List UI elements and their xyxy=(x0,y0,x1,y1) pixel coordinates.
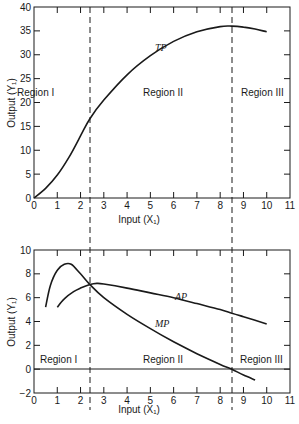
bottom-y-axis-title: Output (Y₁) xyxy=(6,297,17,347)
x-tick-label: 3 xyxy=(101,200,107,211)
y-tick-label: 40 xyxy=(20,2,32,13)
bottom-region-2-label: Region II xyxy=(143,354,183,365)
production-function-figure: 01234567891011 0510152025303540 TP Regio… xyxy=(0,0,299,424)
ap-label: AP xyxy=(174,291,187,302)
x-tick-label: 9 xyxy=(241,395,247,406)
y-tick-label: 35 xyxy=(20,25,32,36)
bottom-region-1-label: Region I xyxy=(40,354,77,365)
y-tick-label: 5 xyxy=(25,169,31,180)
y-tick-label: 10 xyxy=(20,245,32,256)
top-x-ticks: 01234567891011 xyxy=(31,7,295,211)
x-tick-label: 5 xyxy=(148,200,154,211)
y-tick-label: −2 xyxy=(20,388,32,399)
top-region-1-label: Region I xyxy=(17,87,54,98)
x-tick-label: 6 xyxy=(171,395,177,406)
y-tick-label: 20 xyxy=(20,97,32,108)
y-tick-label: 2 xyxy=(25,340,31,351)
x-tick-label: 7 xyxy=(194,395,200,406)
x-tick-label: 4 xyxy=(124,200,130,211)
y-tick-label: 0 xyxy=(25,193,31,204)
tp-label: TP xyxy=(155,42,167,53)
y-tick-label: 4 xyxy=(25,316,31,327)
y-tick-label: 6 xyxy=(25,292,31,303)
y-tick-label: 15 xyxy=(20,121,32,132)
top-x-axis-title: Input (X₁) xyxy=(118,214,160,225)
x-tick-label: 8 xyxy=(217,395,223,406)
x-tick-label: 0 xyxy=(31,200,37,211)
y-tick-label: 8 xyxy=(25,268,31,279)
top-plot-frame xyxy=(34,7,290,198)
bottom-region-3-label: Region III xyxy=(240,354,283,365)
x-tick-label: 8 xyxy=(217,200,223,211)
x-tick-label: 3 xyxy=(101,395,107,406)
y-tick-label: 25 xyxy=(20,73,32,84)
total-product-chart: 01234567891011 0510152025303540 TP Regio… xyxy=(6,2,296,226)
bottom-x-axis-title: Input (X₁) xyxy=(118,404,160,415)
x-tick-label: 2 xyxy=(78,200,84,211)
x-tick-label: 10 xyxy=(261,395,273,406)
x-tick-label: 7 xyxy=(194,200,200,211)
x-tick-label: 0 xyxy=(31,395,37,406)
mp-label: MP xyxy=(154,318,169,329)
x-tick-label: 11 xyxy=(285,395,296,406)
top-y-axis-title: Output (Y₁) xyxy=(6,78,17,128)
y-tick-label: 10 xyxy=(20,145,32,156)
x-tick-label: 1 xyxy=(54,200,60,211)
marginal-average-product-chart: 01234567891011 −20246810 AP MP Region I … xyxy=(6,245,296,416)
top-y-ticks: 0510152025303540 xyxy=(20,2,290,204)
x-tick-label: 1 xyxy=(54,395,60,406)
x-tick-label: 2 xyxy=(78,395,84,406)
top-region-2-label: Region II xyxy=(143,87,183,98)
x-tick-label: 6 xyxy=(171,200,177,211)
x-tick-label: 9 xyxy=(241,200,247,211)
y-tick-label: 0 xyxy=(25,364,31,375)
top-region-3-label: Region III xyxy=(241,87,284,98)
y-tick-label: 30 xyxy=(20,49,32,60)
x-tick-label: 11 xyxy=(285,200,296,211)
x-tick-label: 10 xyxy=(261,200,273,211)
